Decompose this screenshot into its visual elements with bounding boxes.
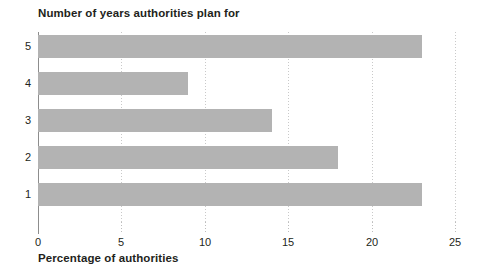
x-axis-tick-labels: 0510152025	[0, 0, 479, 270]
x-axis-title: Percentage of authorities	[38, 252, 179, 264]
x-axis-tick-label: 10	[185, 236, 225, 248]
x-axis-tick-label: 0	[18, 236, 58, 248]
x-axis-tick-label: 5	[101, 236, 141, 248]
x-axis-tick-label: 20	[352, 236, 392, 248]
x-axis-tick-label: 25	[435, 236, 475, 248]
x-axis-tick-label: 15	[268, 236, 308, 248]
bar-chart: Number of years authorities plan for 543…	[0, 0, 479, 270]
